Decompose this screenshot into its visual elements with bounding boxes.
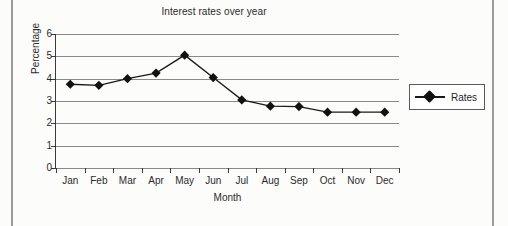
x-axis-tick	[113, 168, 114, 173]
y-axis-tick-label: 3	[22, 95, 52, 106]
chart-title: Interest rates over year	[14, 6, 414, 17]
plot-area: 0123456 JanFebMarAprMayJunJulAugSepOctNo…	[56, 34, 399, 168]
x-axis-tick	[313, 168, 314, 173]
data-point-marker	[380, 108, 389, 117]
data-point-marker	[123, 74, 132, 83]
y-axis-tick-label: 1	[22, 140, 52, 151]
data-point-marker	[294, 102, 303, 111]
data-point-marker	[266, 102, 275, 111]
y-axis-tick-label: 2	[22, 117, 52, 128]
line-chart: Interest rates over year 0123456 JanFebM…	[14, 0, 492, 226]
x-axis-tick	[370, 168, 371, 173]
data-point-marker	[323, 108, 332, 117]
x-axis-tick	[256, 168, 257, 173]
data-point-marker	[151, 68, 160, 77]
x-axis-tick	[56, 168, 57, 173]
data-point-marker	[94, 81, 103, 90]
chart-legend: Rates	[409, 84, 485, 110]
series-line	[70, 55, 384, 112]
x-axis-tick	[170, 168, 171, 173]
x-axis-tick	[285, 168, 286, 173]
x-axis-tick	[199, 168, 200, 173]
x-axis-title: Month	[56, 192, 399, 203]
page-margin-rule-right	[492, 0, 494, 226]
x-axis-tick	[142, 168, 143, 173]
scanned-page: Interest rates over year 0123456 JanFebM…	[0, 0, 508, 226]
x-axis-tick-label: Dec	[365, 175, 405, 186]
legend-item-rates: Rates	[410, 85, 484, 109]
x-axis-tick	[85, 168, 86, 173]
legend-swatch	[415, 91, 445, 103]
data-point-marker	[66, 80, 75, 89]
series-rates	[56, 34, 399, 168]
x-axis-tick	[228, 168, 229, 173]
x-axis-tick	[399, 168, 400, 173]
diamond-marker-icon	[423, 90, 436, 103]
data-point-marker	[352, 108, 361, 117]
y-axis-tick-label: 0	[22, 162, 52, 173]
page-margin-rule-left	[11, 0, 13, 226]
legend-label: Rates	[451, 92, 477, 103]
x-axis-tick	[342, 168, 343, 173]
y-axis-title: Percentage	[30, 23, 41, 74]
y-axis-tick-label: 4	[22, 73, 52, 84]
